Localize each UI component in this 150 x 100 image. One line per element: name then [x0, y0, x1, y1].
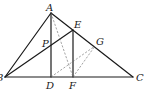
label-point-d: D	[45, 80, 54, 91]
label-point-b: B	[0, 72, 3, 83]
label-point-e: E	[73, 19, 82, 30]
segment-af	[51, 13, 73, 77]
segment-be	[5, 30, 73, 77]
label-point-c: C	[136, 72, 144, 83]
point-labels: ABCDEFGP	[0, 2, 144, 91]
segment-ac	[51, 13, 133, 77]
label-point-p: P	[41, 38, 49, 49]
geometry-diagram: ABCDEFGP	[0, 0, 150, 100]
label-point-a: A	[45, 2, 53, 13]
segments	[5, 13, 133, 77]
label-point-g: G	[96, 36, 104, 47]
segment-fg	[73, 46, 95, 77]
label-point-f: F	[68, 80, 77, 91]
